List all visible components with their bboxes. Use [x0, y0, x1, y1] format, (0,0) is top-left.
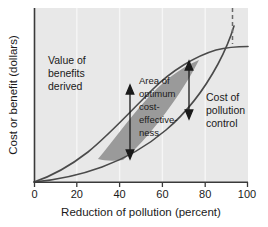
cost-benefit-chart: 0 20 40 60 80 100 Reduction of pollution… [0, 0, 268, 227]
x-tick-label-20: 20 [71, 188, 83, 200]
y-axis-title: Cost or benefit (dollars) [7, 35, 19, 155]
optimum-annotation-line1: Area of [139, 75, 170, 86]
benefit-annotation-line3: derived [48, 80, 83, 92]
x-tick-label-100: 100 [238, 188, 256, 200]
optimum-annotation-line5: ness [139, 127, 159, 138]
benefit-annotation-line2: benefits [48, 67, 85, 79]
optimum-annotation-line2: optimum [139, 88, 176, 99]
optimum-annotation-line3: cost- [139, 101, 160, 112]
cost-annotation-line3: control [206, 117, 238, 129]
cost-annotation-line2: pollution [206, 104, 245, 116]
x-axis-title: Reduction of pollution (percent) [61, 206, 221, 218]
benefit-annotation: Value of benefits derived [48, 54, 86, 92]
x-tick-label-60: 60 [156, 188, 168, 200]
benefit-annotation-line1: Value of [48, 54, 86, 66]
chart-figure: 0 20 40 60 80 100 Reduction of pollution… [0, 0, 268, 227]
optimum-annotation-line4: effective- [139, 114, 177, 125]
x-tick-label-40: 40 [113, 188, 125, 200]
x-tick-label-0: 0 [31, 188, 37, 200]
cost-annotation-line1: Cost of [206, 91, 239, 103]
x-tick-label-80: 80 [199, 188, 211, 200]
